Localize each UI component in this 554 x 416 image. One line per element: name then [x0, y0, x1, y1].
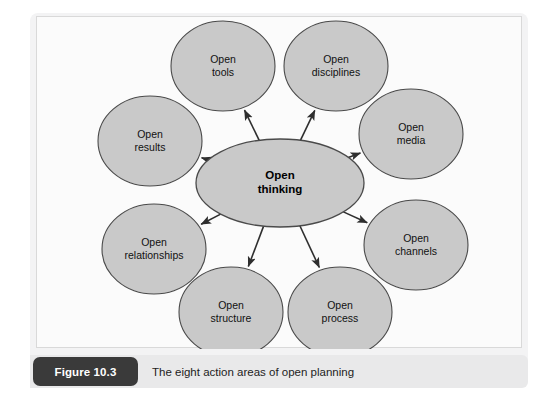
node-label: Openresults — [135, 128, 166, 153]
center-node: Openthinking — [196, 139, 364, 227]
node-open-process[interactable]: Openprocess — [288, 267, 392, 349]
figure-number-badge: Figure 10.3 — [33, 357, 138, 386]
diagram-canvas: OpentoolsOpendisciplinesOpenmediaOpencha… — [36, 16, 522, 348]
node-label: Openmedia — [397, 121, 426, 146]
diagram-svg: OpentoolsOpendisciplinesOpenmediaOpencha… — [37, 17, 523, 349]
connector-arrow-open-channels — [343, 212, 367, 223]
connector-arrow-open-relationships — [201, 214, 220, 224]
node-open-media[interactable]: Openmedia — [359, 89, 463, 179]
node-open-relationships[interactable]: Openrelationships — [102, 204, 206, 294]
figure-caption: The eight action areas of open planning — [152, 357, 354, 386]
connector-arrow-open-media — [348, 153, 360, 158]
figure-number-label: Figure 10.3 — [55, 366, 117, 378]
node-open-results[interactable]: Openresults — [98, 96, 202, 186]
node-open-channels[interactable]: Openchannels — [364, 200, 468, 290]
node-open-thinking[interactable]: Openthinking — [196, 139, 364, 227]
node-open-structure[interactable]: Openstructure — [179, 267, 283, 349]
connector-arrow-open-results — [202, 158, 209, 160]
connector-arrow-open-disciplines — [300, 110, 314, 140]
figure-screenshot: OpentoolsOpendisciplinesOpenmediaOpencha… — [0, 0, 554, 416]
connector-arrow-open-process — [300, 226, 319, 268]
node-label: Opentools — [210, 53, 236, 78]
node-open-disciplines[interactable]: Opendisciplines — [284, 21, 388, 111]
node-open-tools[interactable]: Opentools — [171, 21, 275, 111]
connector-arrow-open-tools — [245, 110, 260, 140]
connector-arrow-open-structure — [248, 226, 263, 266]
